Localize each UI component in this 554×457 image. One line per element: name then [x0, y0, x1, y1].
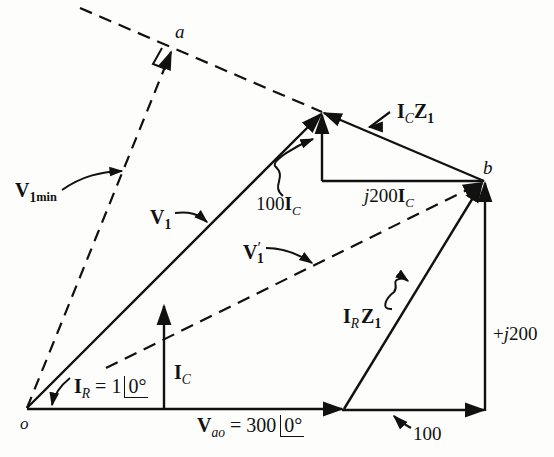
iczl-leader [369, 112, 390, 127]
100ic-leader [275, 139, 313, 196]
v1-main: V [150, 206, 164, 228]
locus-line [80, 8, 322, 112]
ic-main: I [174, 361, 182, 383]
v1prime-main: V [243, 241, 257, 263]
v1-leader [175, 212, 207, 222]
hundred-label: 100 [413, 424, 442, 443]
ic-sub: C [182, 372, 191, 387]
point-b-text: b [483, 157, 493, 178]
v1min-sub2: min [36, 190, 57, 204]
plus-j200-num: 200 [509, 323, 538, 344]
vao-angle-text: 0° [284, 414, 302, 436]
v1prime-label: V′1 [243, 240, 264, 266]
j200ic-sub: C [405, 195, 414, 210]
vao-label: Vao = 3000° [197, 415, 304, 439]
v1prime-leader [266, 248, 312, 263]
iczl-i: I [397, 100, 405, 122]
origin-text: o [20, 414, 29, 433]
v1min-main: V [15, 179, 29, 201]
ir-angle: 0° [124, 376, 148, 398]
irz1-zsub: 1 [374, 316, 381, 331]
v1min-leader [62, 171, 122, 190]
right-angle-mark [153, 48, 166, 69]
vao-sub: ao [211, 425, 225, 440]
hundred-leader [394, 416, 411, 428]
vao-angle: 0° [280, 415, 304, 437]
irz1-sub: R [351, 316, 359, 331]
100ic-i: I [285, 193, 292, 214]
ir-label: IR = 10° [74, 376, 148, 400]
ir-leader [52, 378, 70, 405]
vao-main: V [197, 414, 211, 436]
vao-eq: = 300 [225, 414, 276, 436]
100ic-label: 100IC [256, 194, 301, 217]
origin-label: o [20, 415, 29, 432]
iczl-z: Z [414, 100, 427, 122]
irz1-z: Z [361, 305, 374, 327]
v1-label: V1 [150, 207, 171, 231]
v1prime-sub: 1 [257, 251, 264, 266]
iczl-sub: C [405, 111, 414, 126]
j200ic-label: j200IC [364, 186, 414, 209]
ir-eq: = 1 [90, 375, 121, 397]
plus-j200-sign: + [493, 323, 504, 344]
phasor-diagram: a b o V1min V1 V′1 100IC j200IC ICZ1 IRZ… [0, 0, 554, 457]
plus-j200-label: +j200 [493, 324, 538, 343]
point-a-text: a [175, 21, 185, 42]
irz1-i: I [343, 305, 351, 327]
hundred-text: 100 [413, 423, 442, 444]
ir-angle-text: 0° [128, 375, 146, 397]
iczl-label: ICZ1 [397, 101, 434, 125]
point-a-label: a [175, 22, 185, 41]
v1-sub: 1 [164, 217, 171, 232]
irz1-label: IRZ1 [343, 306, 381, 330]
ir-sub: R [82, 386, 90, 401]
100ic-num: 100 [256, 193, 285, 214]
point-b-label: b [483, 158, 493, 177]
100ic-sub: C [292, 203, 301, 218]
iczl-zsub: 1 [427, 111, 434, 126]
ir-main: I [74, 375, 82, 397]
j200ic-num: 200 [369, 185, 398, 206]
ic-label: IC [174, 362, 191, 386]
irz1-leader [385, 278, 408, 309]
v1min-label: V1min [15, 180, 57, 204]
